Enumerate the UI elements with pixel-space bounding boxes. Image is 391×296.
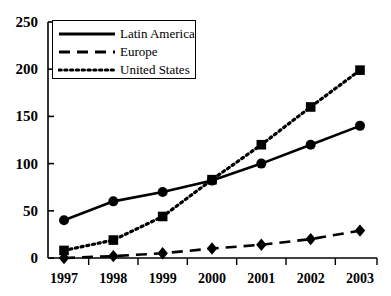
- y-tick-label: 200: [4, 62, 38, 77]
- series-latin-america: [59, 121, 365, 225]
- legend-label: Latin America: [120, 25, 195, 42]
- legend-line-sample-dotted: [58, 60, 116, 79]
- legend-line-sample-solid: [58, 24, 116, 43]
- legend-item: Europe: [53, 42, 195, 61]
- legend-item: Latin America: [53, 24, 195, 43]
- chart-legend: Latin AmericaEuropeUnited States: [52, 20, 196, 79]
- series-united-states: [59, 65, 365, 255]
- y-tick-label: 50: [4, 204, 38, 219]
- x-tick-label: 2003: [330, 272, 390, 286]
- y-tick-label: 150: [4, 109, 38, 124]
- y-tick-label: 100: [4, 157, 38, 172]
- legend-label: United States: [120, 61, 190, 78]
- y-tick-label: 0: [4, 251, 38, 266]
- legend-line-sample-dashed: [58, 42, 116, 61]
- legend-item: United States: [53, 60, 195, 79]
- y-tick-label: 250: [4, 15, 38, 30]
- line-chart: 250200150100500 199719981999200020012002…: [0, 0, 391, 296]
- legend-label: Europe: [120, 43, 158, 60]
